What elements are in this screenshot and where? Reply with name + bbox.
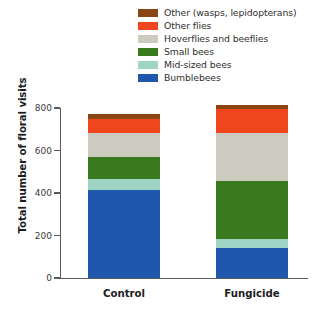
y-axis-tick xyxy=(54,192,60,193)
bar-segment[interactable] xyxy=(216,239,288,248)
y-axis-tick-label: 200 xyxy=(24,231,52,241)
x-axis-line xyxy=(60,278,308,279)
plot-area: 0200400600800 Total number of floral vis… xyxy=(0,0,316,322)
y-axis-tick-label: 400 xyxy=(24,188,52,198)
bar-segment[interactable] xyxy=(88,119,160,133)
bar-segment[interactable] xyxy=(216,133,288,181)
x-axis-tick-label: Control xyxy=(69,288,179,299)
bar-segment[interactable] xyxy=(88,179,160,190)
y-axis-line xyxy=(60,108,61,279)
bar-segment[interactable] xyxy=(88,157,160,179)
chart-figure: Other (wasps, lepidopterans)Other fliesH… xyxy=(0,0,316,322)
stacked-bar[interactable] xyxy=(216,105,288,278)
stacked-bar[interactable] xyxy=(88,114,160,278)
bar-segment[interactable] xyxy=(216,248,288,278)
y-axis-tick xyxy=(54,235,60,236)
y-axis-tick-label: 0 xyxy=(24,273,52,283)
y-axis-tick xyxy=(54,150,60,151)
y-axis-tick-label: 600 xyxy=(24,146,52,156)
bar-segment[interactable] xyxy=(88,133,160,157)
y-axis-tick xyxy=(54,277,60,278)
y-axis-tick xyxy=(54,107,60,108)
bar-segment[interactable] xyxy=(216,109,288,133)
y-axis-tick-label: 800 xyxy=(24,103,52,113)
bar-segment[interactable] xyxy=(88,190,160,278)
bar-segment[interactable] xyxy=(216,181,288,239)
x-axis-tick-label: Fungicide xyxy=(197,288,307,299)
y-axis-title: Total number of floral visits xyxy=(17,66,28,246)
